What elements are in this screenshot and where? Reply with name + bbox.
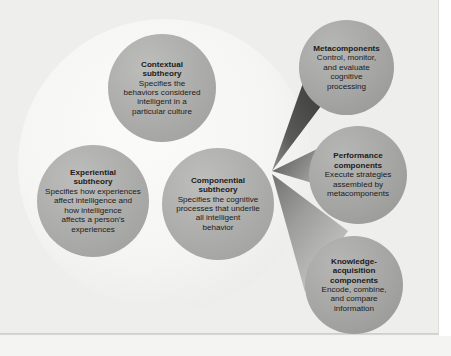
node-contextual-desc-line-2: behaviors considered [124,88,201,97]
node-metacomponents-desc-line-4: processing [327,82,366,91]
node-performance-title-line1: Performance [333,151,382,160]
node-componential-desc-line-4: behavior [202,223,233,232]
node-experiential-desc-line-3: how intelligence [64,206,122,215]
node-contextual-title-line1: Contextual [141,60,183,69]
node-componential-desc-line-3: all intelligent [196,213,241,222]
node-contextual-subtheory[interactable]: Contextual subtheory Specifies the behav… [108,34,216,142]
figure-page: Contextual subtheory Specifies the behav… [0,0,451,356]
node-experiential-desc-line-4: affects a person's [61,215,124,224]
node-experiential-desc-line-5: experiences [71,225,115,234]
node-knowledge-title-line3: components [330,276,378,285]
node-componential-desc-line-2: processes that underlie [176,204,260,213]
node-metacomponents-desc-line-2: and evaluate [323,63,369,72]
node-performance-title-line2: components [334,161,382,170]
node-metacomponents-desc-line-3: cognitive [331,72,363,81]
node-performance-desc-line-1: Execute strategies [325,170,392,179]
node-componential-subtheory[interactable]: Componential subtheory Specifies the cog… [162,148,274,260]
node-experiential-subtheory[interactable]: Experiential subtheory Specifies how exp… [37,145,149,257]
node-knowledge-title-line1: Knowledge- [331,257,377,266]
node-contextual-desc-line-1: Specifies the [139,79,185,88]
node-knowledge-desc-line-1: Encode, combine, [322,285,387,294]
node-performance-desc-line-2: assembled by [333,180,383,189]
node-contextual-title-line2: subtheory [142,69,181,78]
node-metacomponents[interactable]: Metacomponents Control, monitor, and eva… [299,20,394,115]
node-knowledge-acquisition-components[interactable]: Knowledge- acquisition components Encode… [305,236,403,334]
node-experiential-title-line2: subtheory [73,177,112,186]
node-experiential-desc-line-1: Specifies how experiences [45,187,141,196]
node-contextual-desc-line-3: intelligent in a [137,97,187,106]
node-experiential-desc-line-2: affect intelligence and [54,196,132,205]
node-knowledge-desc-line-2: and compare [330,294,377,303]
node-contextual-desc-line-4: particular culture [132,107,192,116]
node-componential-title-line2: subtheory [198,185,237,194]
node-performance-desc-line-3: metacomponents [327,189,389,198]
node-metacomponents-desc-line-1: Control, monitor, [317,53,376,62]
node-performance-components[interactable]: Performance components Execute strategie… [309,126,407,224]
node-componential-title-line1: Componential [191,176,245,185]
node-experiential-title-line1: Experiential [70,168,116,177]
node-knowledge-desc-line-3: information [334,304,374,313]
node-knowledge-title-line2: acquisition [333,266,376,275]
node-componential-desc-line-1: Specifies the cognitive [178,195,259,204]
node-metacomponents-title-line1: Metacomponents [313,44,380,53]
